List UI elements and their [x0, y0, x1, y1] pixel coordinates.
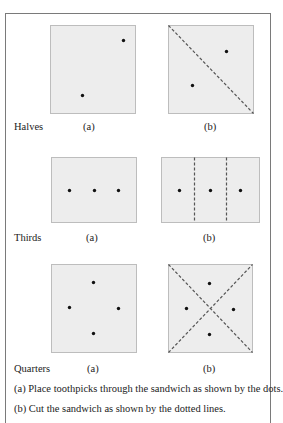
toothpick-dot [178, 189, 181, 192]
toothpick-dot [68, 189, 71, 192]
halves-b-label: (b) [204, 121, 216, 133]
toothpick-dot [232, 308, 235, 311]
toothpick-dot [92, 332, 95, 335]
toothpick-dot [209, 189, 212, 192]
toothpick-dot [208, 282, 211, 285]
thirds-b-sandwich [161, 157, 260, 223]
quarters-a-sandwich [51, 264, 137, 353]
toothpick-dot [239, 189, 242, 192]
halves-a-label: (a) [83, 121, 95, 133]
toothpick-dot [191, 84, 194, 87]
halves-b-sandwich [168, 25, 254, 114]
quarters-a-label: (a) [87, 363, 99, 375]
toothpick-dot [225, 50, 228, 53]
toothpick-dot [185, 307, 188, 310]
quarters-b-sandwich [168, 264, 253, 353]
quarters-b-label: (b) [203, 363, 215, 375]
toothpick-dot [68, 306, 71, 309]
toothpick-dot [208, 333, 211, 336]
caption-a: (a) Place toothpicks through the sandwic… [14, 383, 283, 395]
toothpick-dot [117, 307, 120, 310]
thirds-a-sandwich [51, 157, 137, 223]
toothpick-dot [92, 281, 95, 284]
thirds-b-label: (b) [203, 232, 215, 244]
caption-b: (b) Cut the sandwich as shown by the dot… [14, 403, 226, 415]
toothpick-dot [122, 39, 125, 42]
row-label-quarters: Quarters [14, 363, 50, 375]
toothpick-dot [117, 189, 120, 192]
sandwich-square [52, 265, 137, 353]
row-label-halves: Halves [14, 121, 43, 133]
row-label-thirds: Thirds [14, 232, 41, 244]
thirds-a-label: (a) [86, 232, 98, 244]
halves-a-sandwich [50, 25, 136, 114]
toothpick-dot [81, 94, 84, 97]
sandwich-square [51, 26, 136, 114]
toothpick-dot [93, 189, 96, 192]
